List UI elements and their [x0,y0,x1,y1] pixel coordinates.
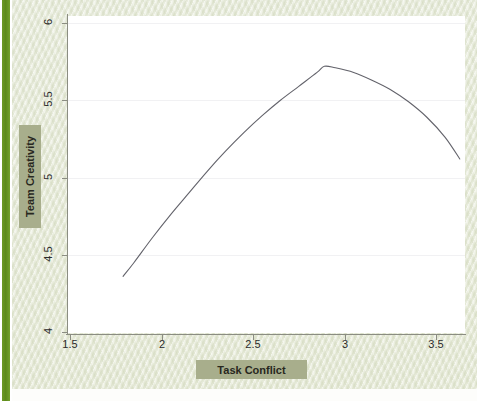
gridline-5 [67,178,465,179]
x-tick-label-2.5: 2.5 [236,338,270,350]
x-axis-line [66,334,466,335]
gridline-6 [67,23,465,24]
x-tick-label-2: 2 [145,338,179,350]
y-tick-label-5.5: 5.5 [42,84,54,114]
y-axis-label-plaque: Team Creativity [19,125,41,228]
y-tick-mark-4 [62,332,68,333]
x-axis-label: Task Conflict [217,364,285,376]
y-axis-line [67,14,68,335]
plot-area [67,16,465,333]
gridline-4.5 [67,255,465,256]
x-tick-label-3.5: 3.5 [419,338,453,350]
y-tick-mark-5.5 [62,100,68,101]
x-axis-label-plaque: Task Conflict [196,360,307,379]
y-tick-label-4.5: 4.5 [42,239,54,269]
y-tick-mark-6 [62,23,68,24]
x-tick-label-1.5: 1.5 [53,338,87,350]
x-tick-label-3: 3 [328,338,362,350]
y-axis-label: Team Creativity [23,125,38,229]
y-tick-label-5: 5 [42,162,54,192]
page-bottom-edge [12,389,477,401]
gridline-5.5 [67,100,465,101]
y-tick-mark-4.5 [62,255,68,256]
green-spine-bar [2,0,10,401]
y-tick-label-6: 6 [42,7,54,37]
y-tick-mark-5 [62,178,68,179]
figure-container: 6 5.5 5 4.5 4 1.5 2 2.5 3 3.5 Team Creat… [0,0,477,401]
